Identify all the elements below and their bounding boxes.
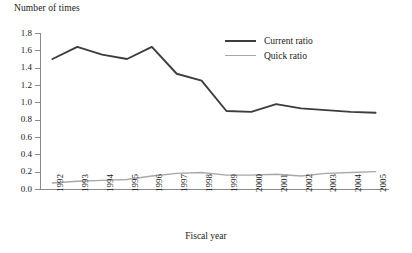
y-axis-tick-label: 1.4 bbox=[10, 63, 32, 72]
x-axis-tick-label: 2000 bbox=[247, 192, 256, 226]
legend-item-current-ratio: Current ratio bbox=[225, 33, 365, 48]
x-axis-tick-label: 1993 bbox=[73, 192, 82, 226]
x-axis-tick-label: 2002 bbox=[297, 192, 306, 226]
legend-swatch-icon-current-ratio bbox=[225, 40, 256, 42]
y-axis-tick-label: 0.8 bbox=[10, 115, 32, 124]
x-axis-tick-label: 1992 bbox=[48, 192, 57, 226]
x-axis-tick-label: 2005 bbox=[371, 192, 380, 226]
x-axis-tick-label: 1999 bbox=[222, 192, 231, 226]
legend-item-quick-ratio: Quick ratio bbox=[225, 48, 365, 63]
x-axis-tick-label: 2004 bbox=[346, 192, 355, 226]
x-axis-tick-label: 1994 bbox=[98, 192, 107, 226]
chart-legend: Current ratio Quick ratio bbox=[225, 33, 365, 63]
legend-swatch-icon-quick-ratio bbox=[225, 55, 256, 56]
x-axis-title: Fiscal year bbox=[0, 231, 412, 241]
x-axis-tick-label: 1995 bbox=[123, 192, 132, 226]
y-axis-tick-label: 1.6 bbox=[10, 46, 32, 55]
y-axis-tick-label: 1.8 bbox=[10, 29, 32, 38]
y-axis-title: Number of times bbox=[14, 3, 80, 13]
y-axis-tick-label: 1.2 bbox=[10, 81, 32, 90]
legend-label-current-ratio: Current ratio bbox=[264, 36, 313, 46]
x-axis-tick-label: 1998 bbox=[197, 192, 206, 226]
y-axis-tick bbox=[35, 189, 40, 190]
x-axis-tick-label: 2001 bbox=[272, 192, 281, 226]
y-axis-tick-label: 0.4 bbox=[10, 150, 32, 159]
y-axis-tick-label: 0.2 bbox=[10, 167, 32, 176]
x-axis-tick-label: 2003 bbox=[321, 192, 330, 226]
y-axis-tick-label: 1.0 bbox=[10, 98, 32, 107]
legend-label-quick-ratio: Quick ratio bbox=[264, 51, 307, 61]
y-axis-tick-label: 0.6 bbox=[10, 133, 32, 142]
x-axis-tick-label: 1997 bbox=[172, 192, 181, 226]
line-chart: Number of times 0.00.20.40.60.81.01.21.4… bbox=[0, 0, 412, 253]
y-axis-tick-label: 0.0 bbox=[10, 185, 32, 194]
x-axis-tick-label: 1996 bbox=[147, 192, 156, 226]
